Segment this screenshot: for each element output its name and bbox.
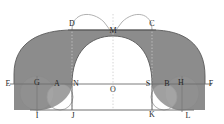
label-K: K <box>149 111 155 119</box>
label-I: I <box>36 112 39 120</box>
geometry-canvas <box>0 0 224 124</box>
geometry-figure: D C M E G A N S B H F O I J K L <box>0 0 224 124</box>
label-A: A <box>54 80 60 88</box>
label-F: F <box>209 80 213 88</box>
label-J: J <box>71 112 74 120</box>
label-D: D <box>69 20 75 28</box>
label-H: H <box>178 79 184 87</box>
label-C: C <box>149 20 154 28</box>
label-B: B <box>164 80 169 88</box>
label-G: G <box>34 79 40 87</box>
label-M: M <box>109 27 116 35</box>
label-N: N <box>73 80 79 88</box>
label-O: O <box>110 86 116 94</box>
label-S: S <box>146 80 150 88</box>
label-L: L <box>186 112 191 120</box>
label-E: E <box>6 80 11 88</box>
